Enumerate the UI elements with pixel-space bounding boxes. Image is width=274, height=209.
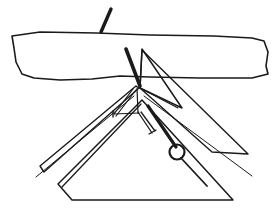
- illustration-root: [0, 0, 274, 209]
- hang-glider-illustration: [0, 0, 274, 209]
